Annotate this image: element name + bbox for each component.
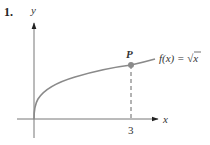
x-axis-label: x — [162, 113, 168, 125]
function-label: f(x) = √x — [159, 52, 198, 65]
radical-arg: x — [192, 52, 198, 64]
function-label-lhs: f(x) = — [159, 52, 187, 65]
problem-number: 1. — [4, 5, 13, 19]
y-axis-label: y — [30, 4, 36, 16]
x-tick-3: 3 — [128, 124, 134, 136]
point-p-label: P — [126, 48, 133, 60]
sqrt-function-diagram: 1. y x P 3 f(x) = √x — [0, 0, 210, 145]
point-p-marker — [128, 62, 134, 68]
sqrt-curve — [34, 59, 155, 119]
